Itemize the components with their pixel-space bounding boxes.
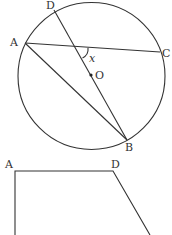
label-c: C [162,47,170,60]
geometry-figure: A C D B O x A D [0,0,172,235]
label-d: D [46,0,55,12]
angle-x-label: x [89,52,96,65]
center-point [89,73,92,76]
label-a2: A [4,158,14,171]
chord-ac [25,43,160,52]
label-a: A [9,36,19,49]
angle-arc [83,48,89,58]
quadrilateral [15,171,150,235]
label-b: B [125,141,133,154]
chord-ab [25,43,127,140]
label-o: O [95,69,104,82]
label-d2: D [111,158,120,171]
